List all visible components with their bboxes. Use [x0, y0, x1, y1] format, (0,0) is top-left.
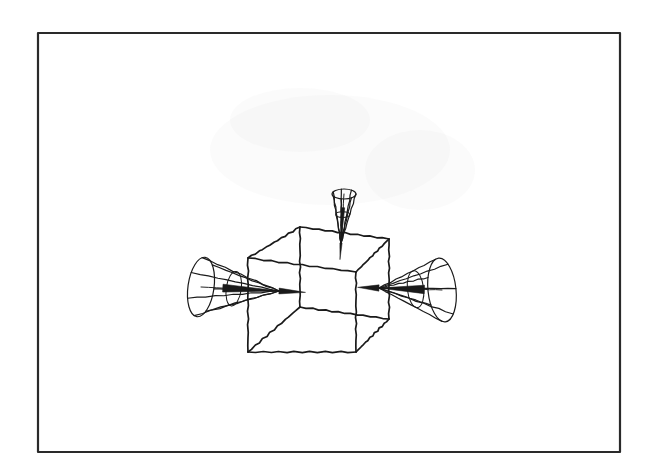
- paper-background: [0, 0, 651, 474]
- cube-edge-front_top_right-to-front_bottom_right: [355, 272, 356, 352]
- figure-canvas: [0, 0, 651, 474]
- wireframe-figure: [0, 0, 651, 474]
- cube-edge-front_bottom_left-to-front_top_left: [247, 258, 248, 352]
